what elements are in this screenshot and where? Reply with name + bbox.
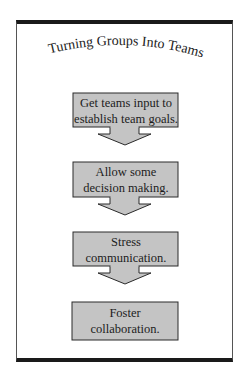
step-3-line-1: Stress (73, 234, 179, 250)
step-3-line-2: communication. (73, 250, 179, 266)
step-2-label: Allow some decision making. (73, 164, 179, 196)
step-4-label: Foster collaboration. (72, 305, 178, 337)
down-arrow-icon (98, 265, 151, 284)
down-arrow-icon (98, 196, 151, 215)
step-4-line-2: collaboration. (72, 321, 178, 337)
step-4-line-1: Foster (72, 305, 178, 321)
step-2-line-2: decision making. (73, 180, 179, 196)
step-1-line-2: establish team goals. (73, 111, 179, 127)
down-arrow-icon (98, 126, 151, 145)
step-1-line-1: Get teams input to (73, 95, 179, 111)
step-2-line-1: Allow some (73, 164, 179, 180)
step-3-label: Stress communication. (73, 234, 179, 266)
step-1-label: Get teams input to establish team goals. (73, 95, 179, 127)
